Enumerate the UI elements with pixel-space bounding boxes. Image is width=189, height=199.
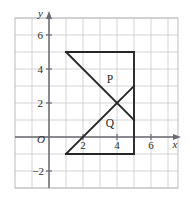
y-tick-label--2: −2 [32,165,44,177]
region-label-p: P [107,73,113,85]
y-tick-label-6: 6 [38,29,44,41]
canvas-background [0,0,189,199]
x-tick-label-4: 4 [114,139,120,151]
y-tick-label-2: 2 [38,97,44,109]
x-tick-label-6: 6 [148,139,154,151]
x-axis-label: x [172,138,178,150]
region-label-q: Q [106,117,115,129]
y-axis-label: y [37,7,43,19]
y-tick-label-4: 4 [38,63,44,75]
coordinate-diagram: y x O 6 4 2 −2 2 4 6 [0,0,189,199]
x-tick-label-2: 2 [80,139,86,151]
coordinate-plane-svg: y x O 6 4 2 −2 2 4 6 [0,0,189,199]
screenshot-root: y x O 6 4 2 −2 2 4 6 [0,0,189,199]
origin-label: O [37,133,45,145]
